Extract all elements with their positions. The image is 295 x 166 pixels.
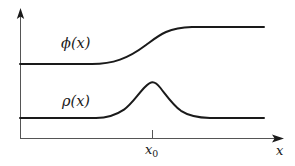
- x-axis-label: x: [276, 144, 283, 157]
- phi-curve: [20, 27, 264, 64]
- phi-curve-label: ϕ(x): [61, 36, 90, 51]
- rho-curve-label: ρ(x): [62, 94, 90, 109]
- rho-curve: [20, 82, 264, 118]
- figure-container: ϕ(x) ρ(x) x0 x: [0, 0, 295, 166]
- x0-tick-label: x0: [145, 143, 158, 158]
- x0-tick-label-subscript: 0: [152, 148, 158, 159]
